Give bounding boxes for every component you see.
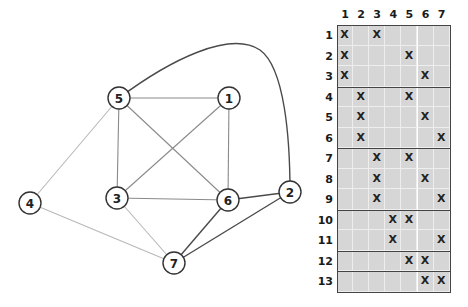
cell-r9-c4 [385,189,401,210]
column-header-5: 5 [401,8,417,21]
column-header-7: 7 [434,8,450,21]
cell-r3-c1: X [337,66,353,87]
cell-r4-c4 [385,87,401,108]
cell-r3-c2 [353,66,369,87]
row-header-13: 13 [309,275,333,288]
cell-r12-c3 [369,251,385,272]
cell-r7-c1 [337,148,353,169]
column-header-2: 2 [353,8,369,21]
row-header-3: 3 [309,70,333,83]
cell-r1-c1: X [337,25,353,46]
cell-r9-c5 [401,189,417,210]
row-header-1: 1 [309,29,333,42]
row-header-6: 6 [309,132,333,145]
cell-r9-c7: X [434,189,450,210]
cell-r1-c5 [401,25,417,46]
cell-r5-c1 [337,107,353,128]
cell-r2-c6 [418,46,434,67]
cell-r12-c4 [385,251,401,272]
cell-r12-c5: X [401,251,417,272]
row-header-2: 2 [309,50,333,63]
cell-r12-c2 [353,251,369,272]
cell-r8-c5 [401,169,417,190]
cell-r7-c3: X [369,148,385,169]
cell-r11-c4: X [385,230,401,251]
cell-r2-c5: X [401,46,417,67]
cell-r7-c4 [385,148,401,169]
cell-r8-c7 [434,169,450,190]
cell-r1-c6 [418,25,434,46]
column-header-3: 3 [369,8,385,21]
cell-r4-c7 [434,87,450,108]
cell-r13-c1 [337,271,353,292]
cell-r10-c1 [337,210,353,231]
cell-r9-c1 [337,189,353,210]
cell-r12-c7 [434,251,450,272]
cell-r13-c6: X [418,271,434,292]
cell-r10-c6 [418,210,434,231]
cell-r3-c7 [434,66,450,87]
cell-r6-c6 [418,128,434,149]
cell-r11-c2 [353,230,369,251]
cell-r10-c3 [369,210,385,231]
cell-r13-c7: X [434,271,450,292]
cell-r10-c5: X [401,210,417,231]
cell-r10-c4: X [385,210,401,231]
row-header-5: 5 [309,111,333,124]
cell-r3-c3 [369,66,385,87]
cell-r8-c6: X [418,169,434,190]
cell-r13-c4 [385,271,401,292]
cell-r5-c6: X [418,107,434,128]
cell-r4-c1 [337,87,353,108]
cell-r9-c3: X [369,189,385,210]
row-header-10: 10 [309,214,333,227]
cell-r5-c4 [385,107,401,128]
cell-r1-c3: X [369,25,385,46]
cell-r5-c7 [434,107,450,128]
cell-r5-c2: X [353,107,369,128]
row-header-8: 8 [309,173,333,186]
cell-r3-c6: X [418,66,434,87]
cell-r6-c1 [337,128,353,149]
column-header-1: 1 [337,8,353,21]
cell-r12-c1 [337,251,353,272]
cell-r3-c4 [385,66,401,87]
cell-r11-c6 [418,230,434,251]
column-header-6: 6 [418,8,434,21]
cell-r3-c5 [401,66,417,87]
cell-r4-c3 [369,87,385,108]
cell-r2-c1: X [337,46,353,67]
cell-r11-c3 [369,230,385,251]
cell-r11-c1 [337,230,353,251]
cell-r11-c5 [401,230,417,251]
cell-r8-c1 [337,169,353,190]
cell-r1-c2 [353,25,369,46]
cell-r2-c2 [353,46,369,67]
cell-r4-c6 [418,87,434,108]
cell-r8-c2 [353,169,369,190]
cell-r4-c2: X [353,87,369,108]
row-header-11: 11 [309,234,333,247]
cell-r4-c5: X [401,87,417,108]
cell-r8-c4 [385,169,401,190]
cell-r5-c3 [369,107,385,128]
row-header-4: 4 [309,91,333,104]
cell-r2-c7 [434,46,450,67]
row-header-7: 7 [309,152,333,165]
cell-r7-c6 [418,148,434,169]
cell-r1-c4 [385,25,401,46]
cell-r1-c7 [434,25,450,46]
cell-r10-c2 [353,210,369,231]
incidence-matrix: 12345671XX2XX3XX4XX5XX6XX7XX8XX9XX10XX11… [0,0,468,307]
cell-r6-c3 [369,128,385,149]
cell-r6-c2: X [353,128,369,149]
cell-r10-c7 [434,210,450,231]
cell-r2-c4 [385,46,401,67]
cell-r8-c3: X [369,169,385,190]
column-header-4: 4 [385,8,401,21]
cell-r9-c6 [418,189,434,210]
cell-r9-c2 [353,189,369,210]
cell-r7-c2 [353,148,369,169]
cell-r13-c3 [369,271,385,292]
row-header-9: 9 [309,193,333,206]
